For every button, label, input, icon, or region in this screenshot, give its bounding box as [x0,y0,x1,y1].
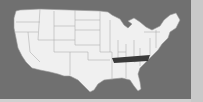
us-outline [14,9,180,92]
us-map [0,0,191,99]
bottom-border [0,99,191,102]
side-strip [191,0,203,102]
map-frame [0,0,203,102]
